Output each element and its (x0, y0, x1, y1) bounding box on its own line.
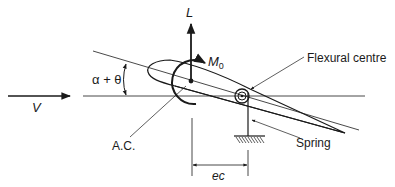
flexural-centre-label: Flexural centre (307, 51, 387, 65)
moment-label: M0 (208, 54, 224, 71)
ec-label: ec (212, 169, 225, 183)
aerodynamic-centre-point (189, 79, 194, 84)
ac-label: A.C. (112, 139, 135, 153)
flexural-centre-leader-line (251, 57, 304, 89)
ground-hatch (234, 136, 265, 143)
ec-dimension (192, 118, 248, 176)
angle-indicator (124, 64, 127, 95)
lift-label: L (186, 5, 193, 20)
pitching-moment-arrow (172, 60, 205, 104)
aerofoil-diagram: V α + θ L M0 A.C. (0, 0, 395, 187)
spring-label: Spring (296, 136, 331, 150)
ac-leader-line (130, 86, 186, 137)
spring-leader-line (252, 120, 300, 138)
velocity-label: V (32, 100, 42, 115)
angle-label: α + θ (92, 72, 122, 87)
